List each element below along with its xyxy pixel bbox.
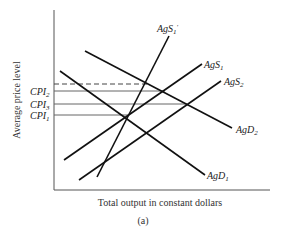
y-axis-title: Average price level <box>11 61 22 139</box>
ags2-curve <box>79 81 221 180</box>
ags1-curve <box>64 64 202 160</box>
figure-caption: (a) <box>137 215 148 227</box>
aggregate-supply-demand-diagram: CPI2 CPI3 CPI1 AgS1′ AgS1 AgS2 AgD2 AgD1… <box>0 0 281 230</box>
ags1-label: AgS1 <box>203 59 224 72</box>
agd1-curve <box>60 71 205 175</box>
cpi2-label: CPI2 <box>30 86 50 99</box>
ags1-prime-curve <box>97 36 169 177</box>
ags1-prime-label: AgS1′ <box>156 23 179 36</box>
agd1-label: AgD1 <box>206 170 229 183</box>
x-axis-title: Total output in constant dollars <box>98 197 222 208</box>
agd2-label: AgD2 <box>235 124 258 137</box>
ags2-label: AgS2 <box>223 76 244 89</box>
